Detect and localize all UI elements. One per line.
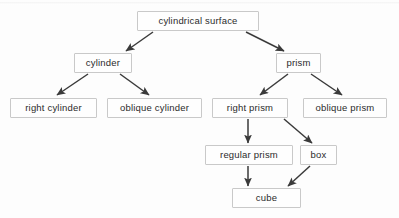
diagram-canvas: cylindrical surfacecylinderprismright cy… (0, 0, 399, 218)
node-label: cylindrical surface (158, 16, 237, 26)
edge-right-prism-box (284, 119, 312, 143)
node-label: oblique prism (316, 103, 375, 113)
edge-prism-right-prism (260, 74, 288, 95)
node-label: oblique cylinder (120, 103, 189, 113)
node-label: regular prism (220, 150, 278, 160)
edge-surface-cylinder (126, 32, 153, 51)
node-right-cylinder[interactable]: right cylinder (10, 98, 97, 118)
node-label: cube (256, 193, 277, 203)
node-label: right cylinder (25, 103, 82, 113)
node-cylindrical-surface[interactable]: cylindrical surface (137, 11, 259, 31)
edge-box-cube (288, 166, 310, 186)
node-prism[interactable]: prism (276, 53, 321, 73)
node-box[interactable]: box (300, 145, 337, 165)
node-cube[interactable]: cube (232, 188, 301, 208)
edge-prism-oblique-prism (311, 74, 342, 95)
node-label: prism (286, 58, 310, 68)
node-oblique-prism[interactable]: oblique prism (303, 98, 387, 118)
node-label: box (311, 150, 327, 160)
node-cylinder[interactable]: cylinder (74, 53, 132, 73)
node-regular-prism[interactable]: regular prism (205, 145, 293, 165)
node-right-prism[interactable]: right prism (212, 98, 288, 118)
edge-cylinder-right-cylinder (57, 74, 88, 95)
edge-cylinder-oblique-cylinder (120, 74, 149, 95)
edge-surface-prism (246, 32, 284, 51)
node-oblique-cylinder[interactable]: oblique cylinder (107, 98, 202, 118)
node-label: right prism (227, 103, 273, 113)
node-label: cylinder (86, 58, 120, 68)
